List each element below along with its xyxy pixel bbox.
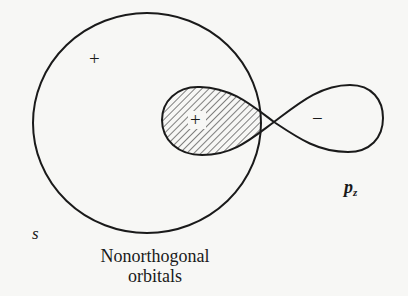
pz-negative-lobe bbox=[274, 85, 383, 152]
pz-plus-sign: + bbox=[190, 110, 201, 129]
s-orbital-label: s bbox=[32, 225, 39, 242]
caption-line-2: orbitals bbox=[70, 266, 240, 286]
pz-minus-sign: − bbox=[312, 109, 323, 128]
s-plus-sign: + bbox=[89, 49, 100, 68]
diagram-caption: Nonorthogonal orbitals bbox=[70, 246, 240, 286]
pz-label-main: p bbox=[344, 177, 353, 197]
pz-orbital-label: pz bbox=[344, 178, 357, 198]
pz-label-sub: z bbox=[353, 186, 357, 198]
caption-line-1: Nonorthogonal bbox=[70, 246, 240, 266]
